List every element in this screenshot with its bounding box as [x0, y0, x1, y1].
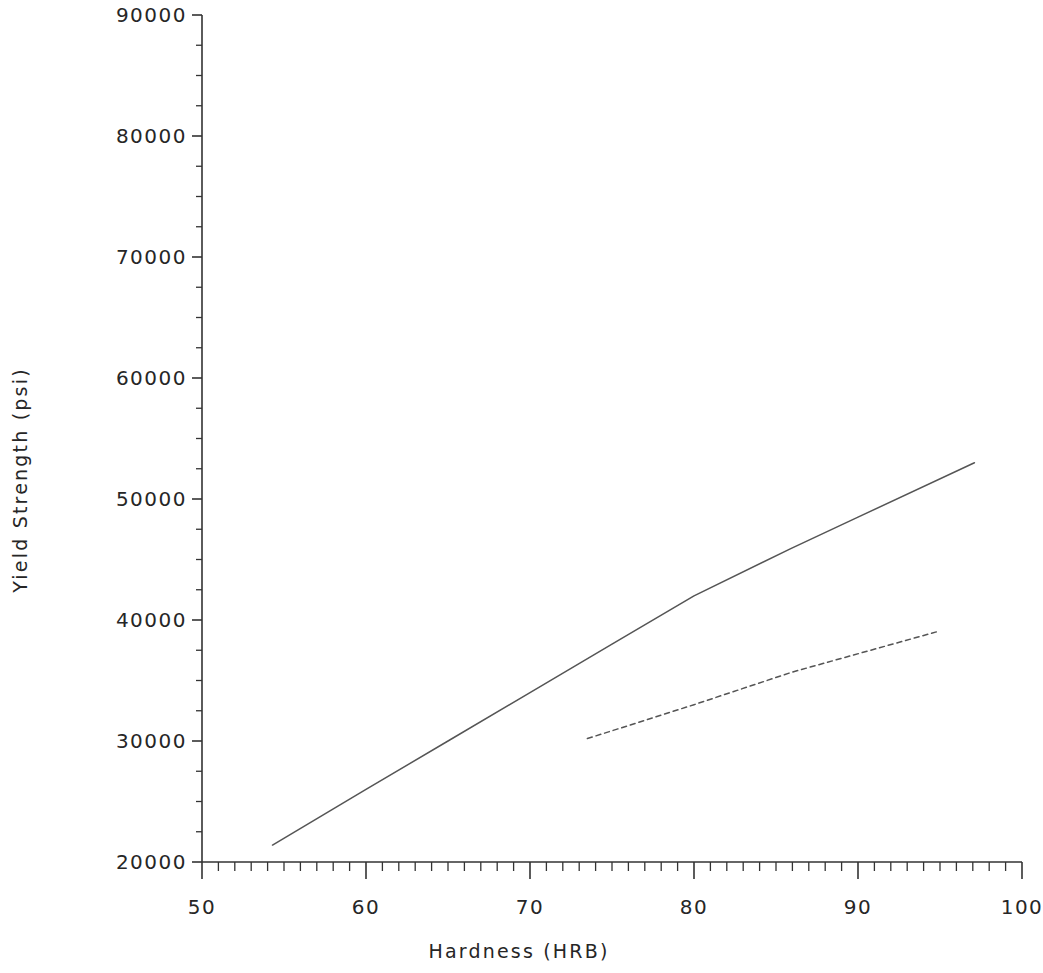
data-series-layer: [273, 463, 975, 845]
x-tick-label: 100: [1001, 895, 1043, 919]
y-tick-label: 30000: [17, 729, 187, 753]
x-axis-title-text: Hardness (HRB): [428, 940, 609, 962]
x-tick-label: 80: [680, 895, 708, 919]
y-tick-label: 60000: [17, 366, 187, 390]
series-dashed-curve: [587, 631, 940, 739]
x-axis-ticks: [202, 862, 1022, 879]
y-axis-title-text: Yield Strength (psi): [9, 367, 31, 593]
y-axis-ticks: [192, 15, 202, 862]
y-tick-label: 40000: [17, 608, 187, 632]
y-tick-label: 80000: [17, 124, 187, 148]
y-tick-label: 70000: [17, 245, 187, 269]
y-tick-label: 90000: [17, 3, 187, 27]
x-tick-label: 90: [844, 895, 872, 919]
y-tick-label: 50000: [17, 487, 187, 511]
axis-lines: [202, 15, 1022, 862]
series-solid-curve: [273, 463, 975, 845]
x-axis-title: Hardness (HRB): [0, 940, 1038, 962]
x-tick-label: 60: [352, 895, 380, 919]
x-tick-label: 50: [188, 895, 216, 919]
y-tick-label: 20000: [17, 850, 187, 874]
x-tick-label: 70: [516, 895, 544, 919]
y-axis-title: Yield Strength (psi): [0, 330, 40, 630]
